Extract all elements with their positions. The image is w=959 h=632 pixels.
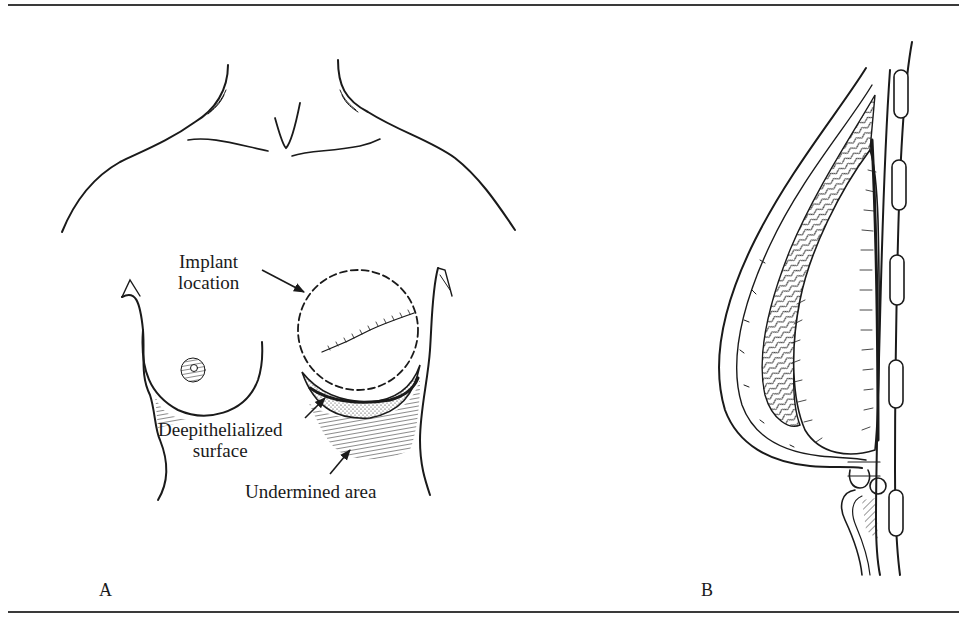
rib-segments bbox=[889, 70, 908, 536]
implant-location-circle bbox=[298, 270, 418, 390]
undermined-area-label: Undermined area bbox=[245, 481, 376, 502]
incision-line bbox=[322, 313, 414, 352]
right-torso-outline bbox=[420, 268, 438, 495]
abdominal-muscle-hatch bbox=[862, 498, 878, 540]
implant-location-arrow bbox=[262, 270, 304, 292]
deepithelialized-label-line1: Deepithelialized bbox=[158, 419, 283, 440]
implant-location-label-line2: location bbox=[178, 272, 239, 293]
inframammary-suture bbox=[849, 470, 869, 488]
panel-b-drawing bbox=[719, 42, 912, 575]
left-clavicle bbox=[188, 139, 268, 151]
panel-a-drawing bbox=[62, 60, 515, 500]
figure-artwork bbox=[0, 0, 959, 632]
left-neck-shoulder-outline bbox=[62, 65, 228, 232]
sternal-notch bbox=[275, 103, 300, 148]
right-clavicle bbox=[292, 139, 380, 156]
implant-location-label-line1: Implant bbox=[178, 251, 239, 272]
deepithelialized-label-line2: surface bbox=[158, 440, 283, 461]
panel-letter-a: A bbox=[99, 580, 112, 601]
undermined-area-arrow bbox=[330, 450, 350, 474]
implant-location-label: Implant location bbox=[178, 251, 239, 293]
panel-letter-b: B bbox=[701, 580, 713, 601]
deepithelialized-surface-label: Deepithelialized surface bbox=[158, 419, 283, 461]
